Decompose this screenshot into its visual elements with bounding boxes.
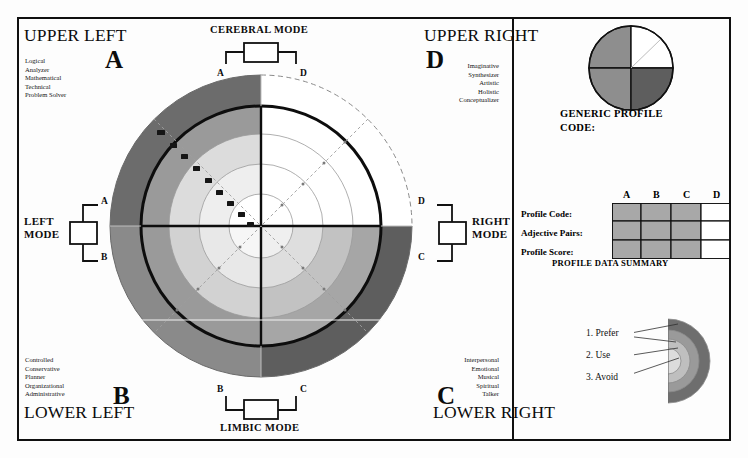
table-cell-pairs-d[interactable] xyxy=(701,221,730,240)
right-top-lead xyxy=(437,205,452,222)
traits-upper-left: Logical Analyzer Mathematical Technical … xyxy=(25,57,66,100)
left-mode-title: LEFT MODE xyxy=(24,215,59,240)
traits-lower-left: Controlled Conservative Planner Organiza… xyxy=(25,356,65,399)
trait-item: Spiritual xyxy=(398,382,499,391)
trait-item: Planner xyxy=(25,373,65,382)
table-col-head-c: C xyxy=(683,189,690,200)
table-row-label-profile-code: Profile Code: xyxy=(521,209,572,219)
trait-item: Logical xyxy=(25,57,66,66)
generic-profile-code-caption: GENERIC PROFILE CODE: xyxy=(560,107,700,135)
left-mode-box xyxy=(70,222,97,244)
legend-label-use: Use xyxy=(596,350,611,360)
table-cell-code-b[interactable] xyxy=(641,203,671,221)
traits-upper-right: Imaginative Synthesizer Artistic Holisti… xyxy=(398,62,499,105)
trait-item: Imaginative xyxy=(398,62,499,71)
trait-item: Administrative xyxy=(25,390,65,399)
legend-item-use: 2. Use xyxy=(586,350,610,360)
trait-item: Interpersonal xyxy=(398,356,499,365)
left-mode-node-b: B xyxy=(101,252,107,262)
corner-label-upper-right: UPPER RIGHT xyxy=(424,25,539,46)
table-cell-code-d[interactable] xyxy=(701,203,730,221)
trait-item: Technical xyxy=(25,83,66,92)
traits-lower-right: Interpersonal Emotional Musical Spiritua… xyxy=(398,356,499,399)
corner-label-upper-left: UPPER LEFT xyxy=(24,25,127,46)
cerebral-mode-title: CEREBRAL MODE xyxy=(210,24,308,35)
legend-half-circle-diagram xyxy=(634,318,730,404)
right-mode-node-c: C xyxy=(418,252,425,262)
table-cell-pairs-a[interactable] xyxy=(612,221,641,240)
left-top-lead xyxy=(83,205,98,222)
table-cell-score-b[interactable] xyxy=(641,240,671,259)
profile-data-summary-caption: PROFILE DATA SUMMARY xyxy=(552,258,669,268)
trait-item: Organizational xyxy=(25,382,65,391)
diagram-page: UPPER LEFT A UPPER RIGHT D LOWER LEFT B … xyxy=(0,0,748,458)
table-row-label-profile-score: Profile Score: xyxy=(521,247,573,257)
table-cell-pairs-c[interactable] xyxy=(671,221,701,240)
trait-item: Talker xyxy=(398,390,499,399)
right-mode-title: RIGHT MODE xyxy=(472,215,510,240)
right-mode-title-line2: MODE xyxy=(472,228,507,240)
legend-number-1: 1. xyxy=(586,328,593,338)
cerebral-node-a: A xyxy=(217,68,224,78)
legend-label-avoid: Avoid xyxy=(595,372,618,382)
table-col-head-b: B xyxy=(653,189,660,200)
quadrant-letter-a: A xyxy=(105,46,123,74)
legend-number-3: 3. xyxy=(586,372,593,382)
trait-item: Holistic xyxy=(398,88,499,97)
table-cell-score-c[interactable] xyxy=(671,240,701,259)
cerebral-node-d: D xyxy=(300,68,307,78)
table-col-head-a: A xyxy=(623,189,630,200)
cerebral-left-lead xyxy=(226,52,244,64)
trait-item: Emotional xyxy=(398,365,499,374)
trait-item: Problem Solver xyxy=(25,91,66,100)
table-col-head-d: D xyxy=(713,189,720,200)
quadrant-letter-b: B xyxy=(113,382,130,410)
generic-code-line2: CODE: xyxy=(560,122,595,133)
table-cell-score-d[interactable] xyxy=(701,240,730,259)
generic-code-line1: GENERIC PROFILE xyxy=(560,108,663,119)
right-mode-box xyxy=(439,222,466,244)
right-mode-node-d: D xyxy=(418,196,425,206)
limbic-mode-title: LIMBIC MODE xyxy=(220,422,299,433)
legend-item-avoid: 3. Avoid xyxy=(586,372,618,382)
legend-label-prefer: Prefer xyxy=(596,328,619,338)
trait-item: Controlled xyxy=(25,356,65,365)
left-bottom-lead xyxy=(83,244,98,261)
table-cell-code-a[interactable] xyxy=(612,203,641,221)
trait-item: Mathematical xyxy=(25,74,66,83)
left-mode-title-line1: LEFT xyxy=(24,215,54,227)
limbic-left-lead xyxy=(226,396,244,410)
quadrant-circle-diagram xyxy=(95,60,435,400)
trait-item: Synthesizer xyxy=(398,71,499,80)
limbic-mode-box xyxy=(244,400,278,419)
trait-item: Artistic xyxy=(398,79,499,88)
left-mode-node-a: A xyxy=(101,196,108,206)
limbic-right-lead xyxy=(278,396,296,410)
table-row-label-adjective-pairs: Adjective Pairs: xyxy=(521,228,583,238)
left-mode-title-line2: MODE xyxy=(24,228,59,240)
table-cell-score-a[interactable] xyxy=(612,240,641,259)
right-mode-title-line1: RIGHT xyxy=(472,215,510,227)
panel-divider xyxy=(512,19,514,439)
profile-data-summary-grid xyxy=(612,203,730,259)
generic-profile-pie xyxy=(585,22,677,114)
table-cell-code-c[interactable] xyxy=(671,203,701,221)
cerebral-right-lead xyxy=(278,52,296,64)
legend-item-prefer: 1. Prefer xyxy=(586,328,619,338)
trait-item: Conceptualizer xyxy=(398,96,499,105)
trait-item: Conservative xyxy=(25,365,65,374)
trait-item: Musical xyxy=(398,373,499,382)
trait-item: Analyzer xyxy=(25,66,66,75)
cerebral-mode-box xyxy=(244,43,278,62)
right-bottom-lead xyxy=(437,244,452,261)
limbic-mode-connector xyxy=(206,392,316,426)
legend-number-2: 2. xyxy=(586,350,593,360)
right-mode-connector xyxy=(426,195,470,271)
table-cell-pairs-b[interactable] xyxy=(641,221,671,240)
